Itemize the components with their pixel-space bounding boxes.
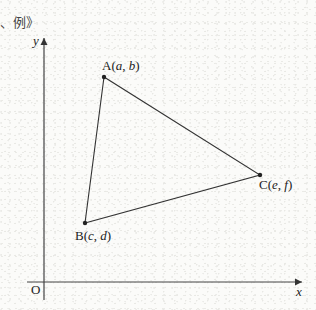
point-c-label: C(e, f) — [259, 177, 292, 192]
point-b — [83, 221, 87, 225]
y-axis-label: y — [31, 33, 39, 48]
point-a — [102, 75, 106, 79]
point-a-label: A(a, b) — [102, 58, 140, 73]
x-axis-label: x — [295, 284, 302, 299]
coordinate-diagram: y x O A(a, b) B(c, d) C(e, f) — [0, 0, 316, 310]
triangle-abc — [85, 77, 260, 223]
origin-label: O — [31, 282, 40, 297]
point-b-label: B(c, d) — [75, 228, 111, 243]
